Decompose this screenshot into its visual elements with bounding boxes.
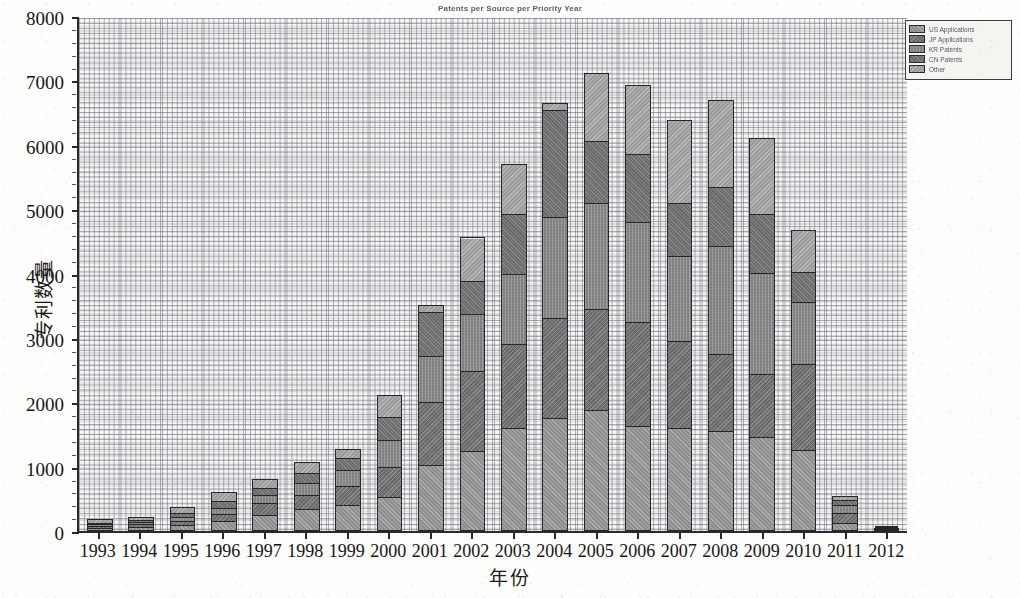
bar-segment xyxy=(129,520,153,522)
bar-slot xyxy=(783,18,824,531)
y-tick-mark-minor xyxy=(72,365,76,366)
bar-segment xyxy=(543,418,567,530)
bar-slot xyxy=(120,18,161,531)
x-tick-label: 2006 xyxy=(617,533,659,563)
y-tick-mark-minor xyxy=(72,69,76,70)
bar-stack[interactable] xyxy=(832,496,858,531)
bar-segment xyxy=(129,527,153,530)
bar-stack[interactable] xyxy=(749,138,775,531)
bar-segment xyxy=(336,458,360,469)
x-tick-label: 2012 xyxy=(866,533,908,563)
bar-stack[interactable] xyxy=(667,120,693,531)
bar-segment xyxy=(461,239,485,282)
bar-segment xyxy=(212,514,236,521)
legend-item[interactable]: KR Patents xyxy=(909,45,1008,53)
bar-stack[interactable] xyxy=(708,100,734,531)
bar-stack[interactable] xyxy=(128,517,154,531)
y-tick-mark-minor xyxy=(72,442,76,443)
bar-stack[interactable] xyxy=(791,230,817,531)
bar-segment xyxy=(171,517,195,521)
bar-segment xyxy=(543,318,567,418)
bar-segment xyxy=(709,246,733,354)
x-tick-label: 2003 xyxy=(492,533,534,563)
bar-segment xyxy=(336,505,360,530)
bar-segment xyxy=(336,486,360,505)
y-tick-mark-minor xyxy=(72,236,76,237)
bar-stack[interactable] xyxy=(460,237,486,531)
bar-segment xyxy=(378,396,402,416)
bar-segment xyxy=(129,518,153,520)
bar-slot xyxy=(286,18,327,531)
bar-stack[interactable] xyxy=(294,462,320,531)
bar-slot xyxy=(534,18,575,531)
bar-stack[interactable] xyxy=(542,103,568,531)
legend-swatch xyxy=(909,65,925,73)
bar-segment xyxy=(543,110,567,218)
y-tick-mark-minor xyxy=(72,107,76,108)
bar-segment xyxy=(585,203,609,309)
bar-segment xyxy=(875,529,899,530)
bar-slot xyxy=(327,18,368,531)
bar-segment xyxy=(626,86,650,155)
legend-item[interactable]: CN Patents xyxy=(909,55,1008,63)
bar-segment xyxy=(88,524,112,526)
bar-segment xyxy=(792,450,816,530)
legend-item[interactable]: JP Applications xyxy=(909,35,1008,43)
bar-stack[interactable] xyxy=(335,449,361,531)
bar-segment xyxy=(295,495,319,509)
legend-label: KR Patents xyxy=(929,46,962,53)
bar-segment xyxy=(502,214,526,274)
bar-stack[interactable] xyxy=(252,479,278,531)
x-tick-label: 2010 xyxy=(783,533,825,563)
bar-stack[interactable] xyxy=(874,528,900,531)
bar-stack[interactable] xyxy=(87,519,113,531)
bar-stack[interactable] xyxy=(170,507,196,531)
legend-item[interactable]: US Applications xyxy=(909,25,1008,33)
bar-slot xyxy=(617,18,658,531)
bar-segment xyxy=(502,274,526,344)
legend-swatch xyxy=(909,45,925,53)
bar-stack[interactable] xyxy=(418,305,444,531)
bar-segment xyxy=(833,497,857,499)
x-axis-ticks: 1993199419951996199719981999200020012002… xyxy=(77,533,907,563)
y-tick-mark-minor xyxy=(72,287,76,288)
y-tick-label: 7000 xyxy=(26,73,64,92)
bar-segment xyxy=(378,497,402,530)
bar-segment xyxy=(668,256,692,341)
bar-slot xyxy=(576,18,617,531)
bar-slot xyxy=(742,18,783,531)
bar-segment xyxy=(709,354,733,431)
bar-stack[interactable] xyxy=(625,85,651,531)
bar-segment xyxy=(419,312,443,357)
bar-segment xyxy=(461,371,485,452)
bar-segment xyxy=(171,508,195,513)
y-tick-mark-minor xyxy=(72,30,76,31)
chart-root: Patents per Source per Priority Year 专利数… xyxy=(0,0,1020,598)
bar-segment xyxy=(668,203,692,256)
bar-stack[interactable] xyxy=(377,395,403,531)
x-tick-label: 1993 xyxy=(77,533,119,563)
bar-segment xyxy=(88,526,112,528)
y-tick-mark-minor xyxy=(72,197,76,198)
legend-swatch xyxy=(909,25,925,33)
bar-segment xyxy=(585,74,609,141)
bar-stack[interactable] xyxy=(584,73,610,531)
bar-segment xyxy=(419,465,443,530)
bar-segment xyxy=(88,523,112,525)
y-tick-label: 3000 xyxy=(26,330,64,349)
bar-segment xyxy=(461,314,485,371)
y-tick-label: 4000 xyxy=(26,266,64,285)
bar-segment xyxy=(253,495,277,503)
legend-item[interactable]: Other xyxy=(909,65,1008,73)
bar-segment xyxy=(875,527,899,528)
bar-slot xyxy=(162,18,203,531)
bar-stack[interactable] xyxy=(501,164,527,531)
bar-stack[interactable] xyxy=(211,492,237,531)
legend-swatch xyxy=(909,35,925,43)
y-tick-label: 1000 xyxy=(26,459,64,478)
bar-segment xyxy=(626,426,650,530)
y-tick-label: 8000 xyxy=(26,9,64,28)
bar-segment xyxy=(792,272,816,301)
y-tick-mark-minor xyxy=(72,519,76,520)
bar-segment xyxy=(171,521,195,525)
